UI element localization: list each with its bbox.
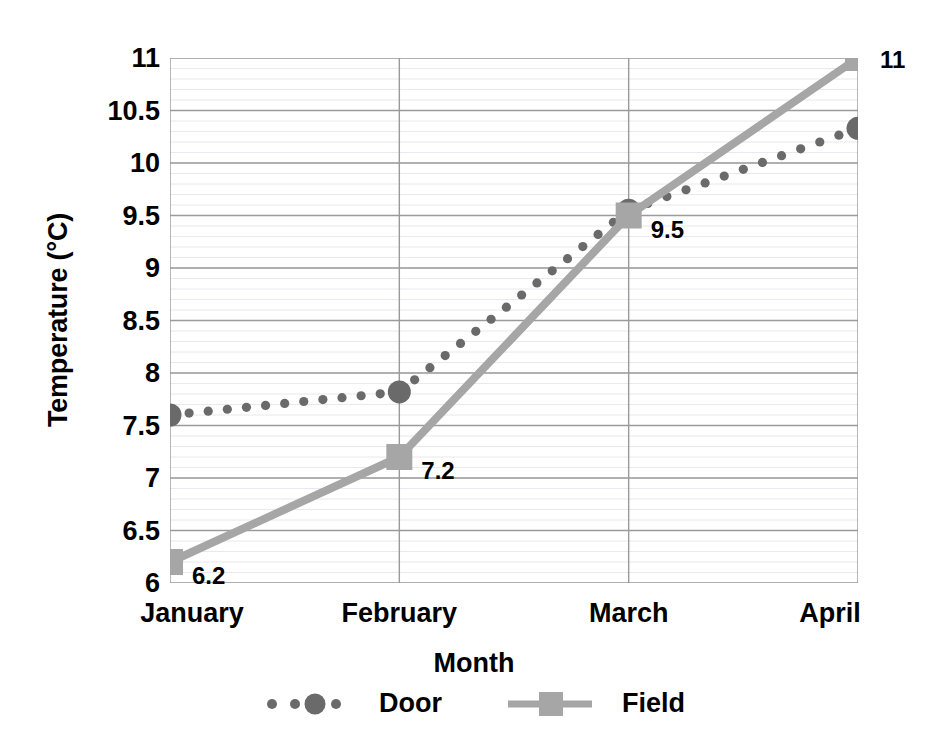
x-axis-tick-labels: JanuaryFebruaryMarchApril bbox=[0, 600, 948, 640]
data-label-field-march: 9.5 bbox=[651, 218, 684, 242]
legend-item-field[interactable]: Field bbox=[506, 690, 685, 717]
plot-svg bbox=[170, 58, 858, 583]
legend-item-door[interactable]: Door bbox=[263, 690, 442, 717]
data-label-field-february: 7.2 bbox=[421, 459, 454, 483]
y-tick-label: 11 bbox=[88, 45, 160, 72]
marker-door bbox=[847, 117, 859, 140]
y-axis-title: Temperature (°C) bbox=[30, 0, 86, 640]
y-tick-label: 6.5 bbox=[88, 517, 160, 544]
y-tick-label: 10 bbox=[88, 150, 160, 177]
x-axis-title: Month bbox=[0, 648, 948, 679]
chart-legend: Door Field bbox=[0, 690, 948, 717]
marker-field bbox=[845, 58, 858, 71]
y-tick-label: 9 bbox=[88, 255, 160, 282]
data-label-field-april: 11 bbox=[880, 48, 905, 72]
data-label-field-january: 6.2 bbox=[192, 564, 225, 588]
y-tick-label: 6 bbox=[88, 570, 160, 597]
x-tick-label-april: April bbox=[799, 600, 861, 627]
chart-container: Temperature (°C) 66.577.588.599.51010.51… bbox=[0, 0, 948, 752]
marker-field bbox=[616, 203, 642, 229]
y-tick-label: 8.5 bbox=[88, 307, 160, 334]
y-tick-label: 9.5 bbox=[88, 202, 160, 229]
x-tick-label-january: January bbox=[140, 600, 244, 627]
marker-field bbox=[170, 549, 183, 575]
legend-label-field: Field bbox=[622, 690, 685, 717]
marker-door bbox=[170, 404, 182, 427]
y-tick-label: 8 bbox=[88, 360, 160, 387]
data-series-group bbox=[170, 58, 858, 575]
x-tick-label-february: February bbox=[342, 600, 458, 627]
legend-label-door: Door bbox=[379, 690, 442, 717]
x-tick-label-march: March bbox=[589, 600, 669, 627]
major-gridlines bbox=[170, 58, 858, 583]
y-tick-label: 7.5 bbox=[88, 412, 160, 439]
marker-field bbox=[386, 444, 412, 470]
dotted-circle-marker-icon bbox=[263, 691, 367, 717]
y-tick-label: 10.5 bbox=[88, 97, 160, 124]
plot-area bbox=[170, 58, 858, 583]
marker-door bbox=[388, 380, 411, 403]
solid-square-marker-icon bbox=[506, 691, 610, 717]
y-tick-label: 7 bbox=[88, 465, 160, 492]
